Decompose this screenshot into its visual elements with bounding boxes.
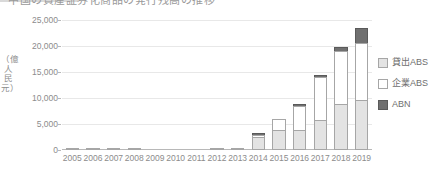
bar-stack[interactable] (107, 148, 121, 150)
bar-stack[interactable] (355, 28, 369, 150)
x-tick-label: 2015 (269, 154, 290, 163)
bar-segment[interactable] (128, 148, 142, 150)
bar-segment[interactable] (293, 130, 307, 150)
bar-stack[interactable] (334, 47, 348, 150)
bar-stack[interactable] (128, 148, 142, 150)
y-tick-mark (58, 98, 61, 99)
y-tick-label: 10,000 (4, 94, 58, 103)
legend-item[interactable]: 企業ABS (378, 78, 442, 89)
legend-label: 貸出ABS (392, 58, 428, 67)
x-axis-tick-labels: 2005200620072008200920102011201220132014… (62, 152, 372, 170)
bar-stack[interactable] (293, 104, 307, 150)
bar-segment[interactable] (66, 148, 80, 150)
y-tick-mark (58, 20, 61, 21)
y-tick-mark (58, 72, 61, 73)
x-tick-label: 2011 (186, 154, 207, 163)
bar-stack[interactable] (252, 133, 266, 150)
x-tick-label: 2010 (165, 154, 186, 163)
chart-legend: 貸出ABS企業ABSABN (378, 57, 442, 120)
x-tick-label: 2007 (103, 154, 124, 163)
bar-segment[interactable] (334, 51, 348, 104)
y-tick-mark (58, 46, 61, 47)
bar-segment[interactable] (272, 119, 286, 130)
bar-stack[interactable] (272, 119, 286, 150)
x-tick-label: 2016 (289, 154, 310, 163)
y-tick-label: 5,000 (4, 120, 58, 129)
x-tick-label: 2005 (62, 154, 83, 163)
y-tick-label: 20,000 (4, 42, 58, 51)
y-tick-label: 25,000 (4, 16, 58, 25)
legend-swatch-icon (378, 79, 388, 89)
bar-stack[interactable] (231, 148, 245, 150)
gridline (62, 46, 372, 47)
legend-label: ABN (392, 100, 411, 109)
legend-swatch-icon (378, 100, 388, 110)
plot-area (62, 20, 372, 150)
stacked-bar-chart: （億人民元） 05,00010,00015,00020,00025,000 20… (0, 0, 444, 179)
bar-segment[interactable] (272, 130, 286, 150)
bar-segment[interactable] (210, 148, 224, 150)
bar-stack[interactable] (314, 75, 328, 150)
x-tick-label: 2009 (145, 154, 166, 163)
bar-stack[interactable] (86, 148, 100, 150)
bar-segment[interactable] (355, 100, 369, 150)
bar-stack[interactable] (66, 148, 80, 150)
x-tick-label: 2018 (331, 154, 352, 163)
bar-segment[interactable] (252, 137, 266, 150)
x-tick-label: 2012 (207, 154, 228, 163)
bar-segment[interactable] (293, 106, 307, 130)
y-tick-label: 15,000 (4, 68, 58, 77)
legend-item[interactable]: 貸出ABS (378, 57, 442, 68)
x-tick-label: 2019 (351, 154, 372, 163)
y-tick-mark (58, 124, 61, 125)
legend-swatch-icon (378, 58, 388, 68)
y-tick-label: 0 (4, 146, 58, 155)
x-tick-label: 2014 (248, 154, 269, 163)
gridline (62, 72, 372, 73)
bar-stack[interactable] (210, 148, 224, 150)
gridline (62, 20, 372, 21)
bar-segment[interactable] (314, 120, 328, 150)
x-tick-label: 2008 (124, 154, 145, 163)
x-tick-label: 2006 (83, 154, 104, 163)
x-tick-label: 2017 (310, 154, 331, 163)
y-axis-tick-labels: 05,00010,00015,00020,00025,000 (0, 0, 58, 179)
bar-segment[interactable] (107, 148, 121, 150)
legend-label: 企業ABS (392, 79, 428, 88)
legend-item[interactable]: ABN (378, 99, 442, 110)
y-tick-mark (58, 150, 61, 151)
bar-segment[interactable] (86, 148, 100, 150)
bar-segment[interactable] (355, 43, 369, 100)
bar-segment[interactable] (355, 28, 369, 43)
x-tick-label: 2013 (227, 154, 248, 163)
bar-segment[interactable] (334, 104, 348, 150)
bar-segment[interactable] (231, 148, 245, 150)
bar-segment[interactable] (314, 77, 328, 120)
